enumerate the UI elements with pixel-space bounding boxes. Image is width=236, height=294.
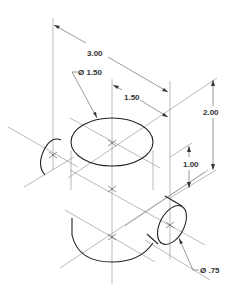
label-overall-length: 3.00: [87, 49, 103, 58]
center-lines: [8, 18, 217, 284]
label-boss-height: 1.00: [183, 160, 199, 169]
label-overall-height: 2.00: [203, 108, 219, 117]
label-center-offset: 1.50: [124, 93, 140, 102]
label-large-diameter: Ø 1.50: [78, 68, 103, 77]
object-lines: [41, 118, 193, 262]
center-marks: [49, 140, 174, 240]
label-small-diameter: Ø .75: [200, 266, 220, 275]
isometric-drawing: 3.00 Ø 1.50 1.50 2.00 1.00 Ø .75: [0, 0, 236, 294]
dimension-lines: [54, 25, 216, 270]
